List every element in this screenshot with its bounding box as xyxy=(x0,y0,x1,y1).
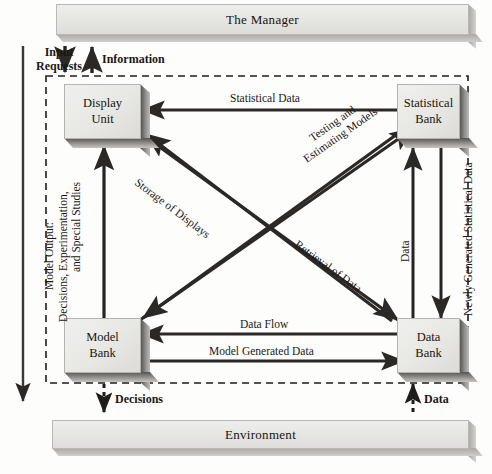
model-bank-bottom xyxy=(64,372,159,382)
model-bank-label: Model Bank xyxy=(86,330,119,361)
manager-bar-label: The Manager xyxy=(226,12,299,28)
environment-bar-face: Environment xyxy=(52,420,469,449)
node-statistical-bank[interactable]: Statistical Bank xyxy=(397,84,469,148)
data-bank-face: Data Bank xyxy=(397,318,460,373)
display-unit-label-line1: Display xyxy=(83,96,122,111)
manager-bar-face: The Manager xyxy=(56,4,469,35)
environment-bar-bottom xyxy=(52,448,483,456)
statistical-bank-label-line1: Statistical xyxy=(404,96,453,111)
label-input-requests: Input Requests xyxy=(27,45,91,74)
node-display-unit[interactable]: Display Unit xyxy=(64,84,150,148)
display-unit-face: Display Unit xyxy=(64,84,141,139)
display-unit-label: Display Unit xyxy=(83,96,122,127)
diagram-canvas: The Manager Display Unit Statistical Ban… xyxy=(0,0,492,474)
statistical-bank-face: Statistical Bank xyxy=(397,84,460,139)
label-newly-generated-statistical-data: Newly Generated Statistical Data xyxy=(462,162,474,316)
manager-bar-side xyxy=(468,4,476,49)
label-data-flow: Data Flow xyxy=(240,318,288,332)
label-model-output-line2: Decisions, Experimentation, xyxy=(57,191,69,322)
manager-bar: The Manager xyxy=(56,4,476,42)
environment-bar-side xyxy=(468,420,476,463)
data-bank-label-line1: Data xyxy=(415,330,441,345)
model-bank-label-line1: Model xyxy=(86,330,119,345)
label-input-requests-line2: Requests xyxy=(27,59,91,73)
label-model-output-line1: Model Output: xyxy=(43,222,55,290)
label-data-vertical: Data xyxy=(399,240,411,262)
label-model-output-line3: and Special Studies xyxy=(70,182,82,272)
statistical-bank-label: Statistical Bank xyxy=(404,96,453,127)
label-decisions: Decisions xyxy=(115,392,163,406)
data-bank-label-line2: Bank xyxy=(415,346,441,361)
statistical-bank-bottom xyxy=(397,138,478,148)
label-model-generated-data: Model Generated Data xyxy=(209,345,314,359)
data-bank-label: Data Bank xyxy=(415,330,441,361)
node-data-bank[interactable]: Data Bank xyxy=(397,318,469,382)
data-bank-bottom xyxy=(397,372,478,382)
node-model-bank[interactable]: Model Bank xyxy=(64,318,150,382)
display-unit-bottom xyxy=(64,138,159,148)
display-unit-label-line2: Unit xyxy=(83,112,122,127)
manager-bar-bottom xyxy=(56,34,483,42)
label-statistical-data: Statistical Data xyxy=(230,92,300,106)
label-data-bottom: Data xyxy=(424,392,449,406)
label-input-requests-line1: Input xyxy=(27,45,91,59)
label-information: Information xyxy=(102,52,165,66)
environment-bar: Environment xyxy=(52,420,476,456)
environment-bar-label: Environment xyxy=(225,427,296,443)
statistical-bank-label-line2: Bank xyxy=(404,112,453,127)
model-bank-face: Model Bank xyxy=(64,318,141,373)
model-bank-label-line2: Bank xyxy=(86,346,119,361)
